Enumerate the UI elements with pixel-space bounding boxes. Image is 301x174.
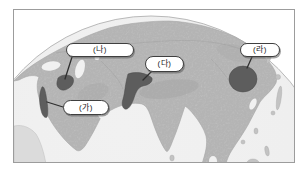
callout-ga: (가): [63, 100, 109, 115]
hainan-island: [241, 140, 245, 144]
callout-ra-label: (라): [253, 46, 267, 54]
hokkaido-island: [276, 75, 281, 80]
callout-na-label: (나): [93, 46, 107, 54]
map-frame: (나) (다) (라) (가): [13, 9, 295, 163]
callout-na: (나): [66, 43, 134, 57]
sri-lanka-island: [170, 155, 174, 161]
eurasia-globe-map: [14, 10, 295, 163]
marked-region-ra: [229, 66, 257, 92]
kyushu-island: [271, 111, 275, 115]
callout-ga-label: (가): [79, 104, 93, 112]
callout-da-label: (다): [158, 60, 172, 68]
callout-da: (다): [145, 56, 184, 72]
callout-ra: (라): [240, 43, 280, 57]
taiwan-island: [254, 128, 258, 134]
